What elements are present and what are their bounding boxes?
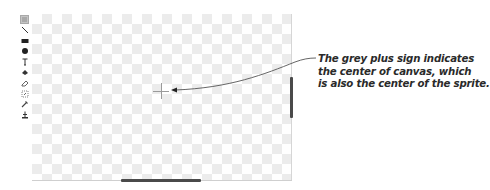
set-center-icon [21,111,29,119]
annotation-line-3: is also the center of the sprite. [318,78,488,91]
annotation-callout: The grey plus sign indicates the center … [318,53,488,91]
eyedropper-tool[interactable] [20,100,29,109]
eyedropper-icon [21,100,29,108]
annotation-line-1: The grey plus sign indicates [318,53,488,66]
line-icon [21,26,29,34]
eraser-icon [21,79,29,87]
rectangle-icon [21,37,29,45]
select-icon [21,16,28,23]
vertical-scrollbar[interactable] [290,77,293,118]
ellipse-tool[interactable] [20,47,29,56]
text-tool[interactable] [20,57,29,66]
paint-toolbar [19,15,30,121]
line-tool[interactable] [20,26,29,35]
ellipse-icon [21,47,29,55]
eraser-tool[interactable] [20,79,29,88]
fill-bucket-icon [21,68,29,76]
set-center-tool[interactable] [20,110,29,119]
rotate-select-tool[interactable] [20,89,29,98]
rectangle-tool[interactable] [20,36,29,45]
fill-tool[interactable] [20,68,29,77]
horizontal-scrollbar[interactable] [121,179,201,182]
canvas-center-plus-icon [153,83,169,99]
rotate-select-icon [21,90,29,98]
select-tool[interactable] [20,15,29,24]
annotation-line-2: the center of canvas, which [318,66,488,79]
text-icon [21,58,29,66]
